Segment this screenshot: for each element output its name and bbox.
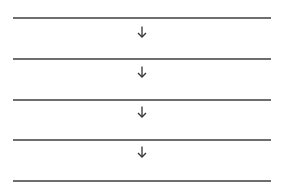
divider-line-2 — [13, 58, 271, 60]
divider-line-4 — [13, 139, 271, 141]
arrow-down-icon — [136, 26, 148, 38]
divider-line-5 — [13, 180, 271, 182]
divider-line-1 — [13, 17, 271, 19]
divider-line-3 — [13, 99, 271, 101]
arrow-down-icon — [136, 66, 148, 78]
arrow-down-icon — [136, 146, 148, 158]
arrow-down-icon — [136, 106, 148, 118]
